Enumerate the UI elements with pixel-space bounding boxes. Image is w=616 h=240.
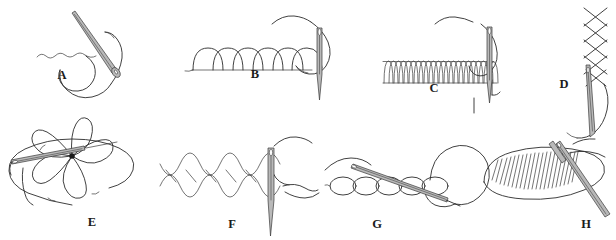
stitch-diagram-figure: A B — [0, 0, 616, 240]
panel-label-e: E — [88, 215, 96, 229]
panel-label-g: G — [372, 217, 382, 231]
panel-label-d: D — [559, 77, 568, 91]
panel-label-a: A — [57, 68, 66, 82]
panel-label-c: C — [429, 81, 438, 95]
figure-canvas: A B — [0, 0, 616, 240]
panel-label-h: H — [581, 217, 591, 231]
panel-label-b: B — [251, 67, 259, 81]
flower-center-dot — [69, 153, 75, 159]
panel-label-f: F — [228, 217, 236, 231]
